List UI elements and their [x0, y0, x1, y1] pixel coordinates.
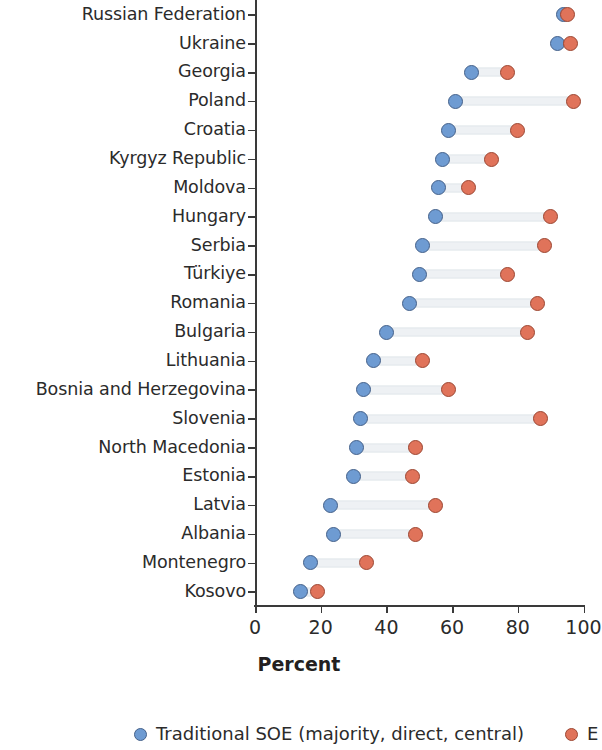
x-axis-title: Percent — [0, 653, 598, 675]
category-label: Estonia — [182, 468, 246, 486]
category-label: Ukraine — [179, 35, 246, 53]
legend-label: E — [587, 725, 598, 743]
category-label: Moldova — [173, 179, 246, 197]
category-label: Bosnia and Herzegovina — [36, 381, 246, 399]
data-point-extended-soe — [500, 65, 515, 80]
chart-row: Russian Federation — [0, 0, 598, 30]
y-axis-tick — [248, 591, 255, 593]
data-point-traditional-soe — [448, 94, 463, 109]
chart-row: Serbia — [0, 231, 598, 261]
data-point-traditional-soe — [428, 209, 443, 224]
data-point-traditional-soe — [293, 584, 308, 599]
category-label: Montenegro — [142, 554, 246, 572]
category-label: Kosovo — [184, 583, 246, 601]
data-point-extended-soe — [461, 180, 476, 195]
chart-row: Bosnia and Herzegovina — [0, 375, 598, 405]
data-point-extended-soe — [533, 411, 548, 426]
data-point-extended-soe — [415, 353, 430, 368]
chart-row: Montenegro — [0, 548, 598, 578]
plot-area: Russian FederationUkraineGeorgiaPolandCr… — [0, 0, 598, 610]
x-axis-tick — [518, 605, 520, 613]
y-axis-tick — [248, 361, 255, 363]
y-axis-tick — [248, 72, 255, 74]
x-axis-tick — [584, 605, 586, 613]
data-point-extended-soe — [359, 555, 374, 570]
chart-row: Georgia — [0, 58, 598, 88]
connector-line — [419, 270, 508, 279]
chart-row: Estonia — [0, 462, 598, 492]
y-axis-tick — [248, 447, 255, 449]
y-axis-tick — [248, 274, 255, 276]
data-point-traditional-soe — [326, 527, 341, 542]
x-axis-tick — [452, 605, 454, 613]
y-axis-tick — [248, 43, 255, 45]
connector-line — [363, 385, 448, 394]
y-axis-tick — [248, 216, 255, 218]
connector-line — [331, 501, 436, 510]
y-axis-tick — [248, 505, 255, 507]
category-label: Kyrgyz Republic — [109, 150, 246, 168]
x-axis-tick — [386, 605, 388, 613]
data-point-traditional-soe — [431, 180, 446, 195]
y-axis-tick — [248, 303, 255, 305]
y-axis-tick — [248, 101, 255, 103]
category-label: Latvia — [193, 496, 246, 514]
data-point-traditional-soe — [379, 325, 394, 340]
data-point-traditional-soe — [303, 555, 318, 570]
blue-circle-marker — [134, 728, 147, 741]
data-point-traditional-soe — [323, 498, 338, 513]
data-point-extended-soe — [537, 238, 552, 253]
data-point-traditional-soe — [349, 440, 364, 455]
chart-row: Latvia — [0, 490, 598, 520]
red-circle-marker — [565, 728, 578, 741]
x-axis-tick-label: 100 — [565, 616, 601, 638]
legend-item[interactable]: E — [565, 718, 598, 750]
chart-row: Croatia — [0, 115, 598, 145]
category-label: Hungary — [172, 208, 246, 226]
data-point-extended-soe — [543, 209, 558, 224]
connector-line — [386, 328, 527, 337]
data-point-extended-soe — [408, 527, 423, 542]
chart-row: Lithuania — [0, 346, 598, 376]
legend-item[interactable]: Traditional SOE (majority, direct, centr… — [134, 718, 524, 750]
x-axis-tick-label: 80 — [506, 616, 530, 638]
data-point-traditional-soe — [464, 65, 479, 80]
data-point-extended-soe — [500, 267, 515, 282]
data-point-extended-soe — [563, 36, 578, 51]
y-axis-tick — [248, 563, 255, 565]
connector-line — [449, 126, 518, 135]
chart-row: Bulgaria — [0, 317, 598, 347]
connector-line — [423, 241, 545, 250]
chart-row: Hungary — [0, 202, 598, 232]
data-point-traditional-soe — [435, 152, 450, 167]
category-label: North Macedonia — [98, 439, 246, 457]
data-point-traditional-soe — [412, 267, 427, 282]
connector-line — [409, 299, 537, 308]
data-point-extended-soe — [520, 325, 535, 340]
category-label: Romania — [170, 295, 246, 313]
legend-label: Traditional SOE (majority, direct, centr… — [156, 725, 524, 743]
data-point-extended-soe — [510, 123, 525, 138]
category-label: Russian Federation — [82, 6, 246, 24]
data-point-extended-soe — [428, 498, 443, 513]
category-label: Bulgaria — [174, 323, 246, 341]
category-label: Georgia — [178, 64, 246, 82]
data-point-traditional-soe — [415, 238, 430, 253]
y-axis-tick — [248, 418, 255, 420]
y-axis-tick — [248, 389, 255, 391]
connector-line — [354, 472, 413, 481]
data-point-traditional-soe — [356, 382, 371, 397]
y-axis-tick — [248, 159, 255, 161]
y-axis-tick — [248, 188, 255, 190]
data-point-traditional-soe — [441, 123, 456, 138]
category-label: Albania — [181, 525, 246, 543]
y-axis-tick — [248, 332, 255, 334]
data-point-extended-soe — [310, 584, 325, 599]
connector-line — [455, 97, 573, 106]
data-point-extended-soe — [566, 94, 581, 109]
data-point-extended-soe — [405, 469, 420, 484]
chart-row: Poland — [0, 87, 598, 117]
chart-row: Kosovo — [0, 577, 598, 607]
x-axis-tick-label: 20 — [309, 616, 333, 638]
